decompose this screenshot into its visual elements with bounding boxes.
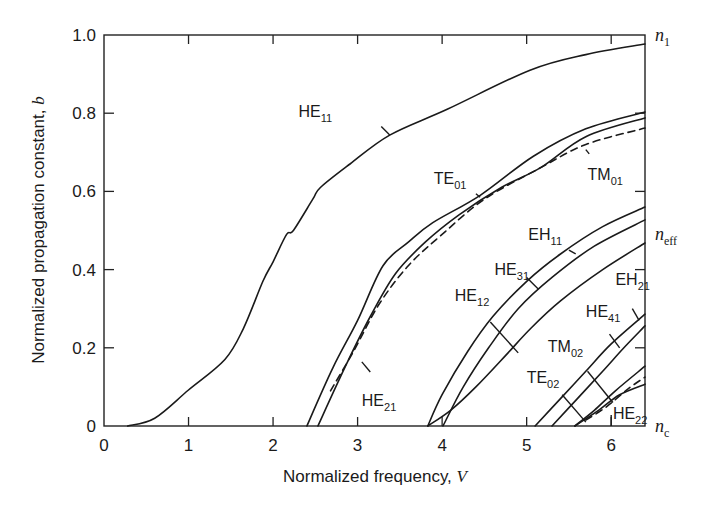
mode-label-tm01: TM01 xyxy=(588,166,623,187)
right-axis-label-neff: neff xyxy=(655,224,677,248)
mode-curves xyxy=(128,44,645,426)
x-tick-label: 0 xyxy=(99,436,108,455)
y-tick-label: 0.4 xyxy=(72,261,96,280)
mode-label-te01: TE01 xyxy=(434,170,467,191)
mode-label-he41: HE41 xyxy=(586,303,620,324)
x-axis-title-var: V xyxy=(457,467,470,486)
mode-label-eh11: EH11 xyxy=(528,226,562,247)
mode-label-tm02: TM02 xyxy=(548,338,583,359)
leader-he41 xyxy=(609,334,619,348)
y-tick-label: 0.8 xyxy=(72,104,96,123)
mode-label-he12: HE12 xyxy=(455,287,489,308)
chart: HE11TE01TM01HE21EH11HE31HE12EH21HE41TM02… xyxy=(0,0,702,511)
leader-tm02 xyxy=(588,371,613,402)
right-axis-label-nc: nc xyxy=(655,416,669,440)
y-tick-label: 0 xyxy=(87,417,96,436)
mode-label-he31: HE31 xyxy=(495,261,529,282)
tick-labels: 012345600.20.40.60.81.0n1neffnc xyxy=(72,25,677,455)
mode-label-he22: HE22 xyxy=(613,405,647,426)
y-axis-title-text: Normalized propagation constant, xyxy=(29,105,48,364)
x-axis-title-text: Normalized frequency, xyxy=(283,467,457,486)
leader-he21 xyxy=(362,362,370,372)
leader-eh11 xyxy=(569,250,576,254)
y-axis-title: Normalized propagation constant, b xyxy=(29,96,48,363)
x-tick-label: 6 xyxy=(606,436,615,455)
y-tick-label: 0.2 xyxy=(72,339,96,358)
plot-axes xyxy=(104,35,645,426)
mode-label-he11: HE11 xyxy=(298,103,332,124)
curve-he21 xyxy=(318,118,645,426)
x-tick-label: 2 xyxy=(268,436,277,455)
leader-tm01 xyxy=(586,150,589,154)
leader-te02 xyxy=(562,395,586,422)
mode-label-te02: TE02 xyxy=(527,369,560,390)
leader-he11 xyxy=(381,126,389,135)
mode-label-he21: HE21 xyxy=(362,392,396,413)
x-tick-label: 4 xyxy=(437,436,446,455)
curve-he12 xyxy=(428,243,645,426)
leader-eh21 xyxy=(632,309,639,321)
x-axis-title: Normalized frequency, V xyxy=(283,467,470,486)
curve-he11 xyxy=(128,44,645,426)
y-axis-title-var: b xyxy=(29,96,48,105)
right-axis-label-n1: n1 xyxy=(655,25,670,49)
x-tick-label: 5 xyxy=(522,436,531,455)
y-tick-label: 1.0 xyxy=(72,26,96,45)
x-tick-label: 3 xyxy=(353,436,362,455)
y-tick-label: 0.6 xyxy=(72,182,96,201)
x-tick-label: 1 xyxy=(184,436,193,455)
plot-frame xyxy=(104,35,645,426)
